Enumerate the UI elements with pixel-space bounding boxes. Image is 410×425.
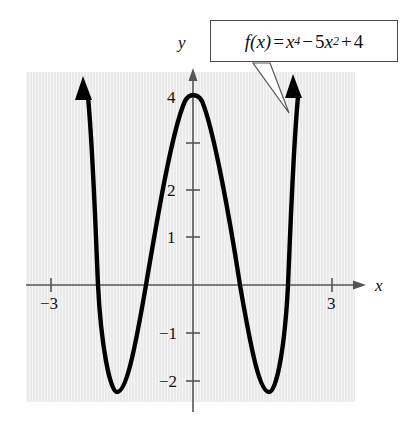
x-tick-label-minus-3: −3 — [40, 295, 58, 312]
graph-overlay — [0, 0, 410, 425]
formula-callout-box: f(x) = x4 − 5x2 + 4 — [210, 20, 398, 62]
formula-constant: 4 — [354, 32, 364, 51]
y-tick-label-minus-1: −1 — [159, 325, 177, 342]
callout-leader-line — [253, 63, 289, 113]
formula-text: f(x) = x4 − 5x2 + 4 — [211, 21, 397, 61]
formula-term1-base: x — [286, 32, 294, 51]
y-tick-label-2: 2 — [167, 182, 176, 199]
function-graph-figure: f(x) = x4 − 5x2 + 4 y x 4 2 1 −1 −2 −3 3 — [0, 0, 410, 425]
formula-minus: − — [300, 32, 315, 51]
y-tick-label-1: 1 — [167, 229, 176, 246]
formula-term2-coefficient: 5 — [315, 32, 325, 51]
y-axis — [186, 68, 200, 412]
y-axis-label: y — [178, 34, 186, 51]
y-tick-label-minus-2: −2 — [159, 373, 177, 390]
x-axis — [26, 278, 366, 292]
x-tick-label-3: 3 — [327, 295, 336, 312]
formula-term2-base: x — [325, 32, 333, 51]
function-curve — [75, 74, 302, 392]
formula-plus: + — [339, 32, 354, 51]
formula-equals: = — [271, 32, 286, 51]
x-axis-label: x — [375, 277, 383, 294]
y-tick-label-4: 4 — [167, 89, 176, 106]
formula-fx: f(x) — [245, 32, 271, 51]
